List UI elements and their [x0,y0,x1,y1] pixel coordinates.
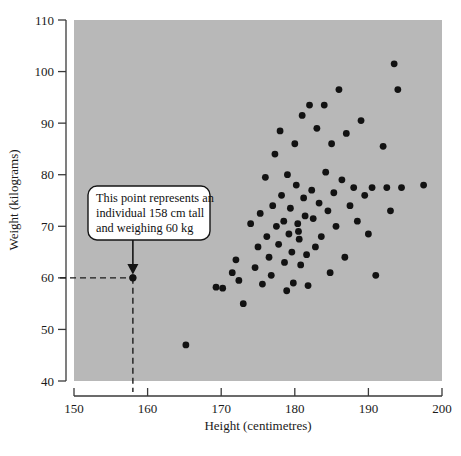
data-point [361,192,368,199]
data-point [259,281,266,288]
y-tick-label: 110 [35,13,54,28]
data-point [287,205,294,212]
data-point [327,269,334,276]
data-point [295,228,302,235]
y-tick-label: 80 [41,167,54,182]
data-point [369,184,376,191]
callout-line-3: and weighing 60 kg [96,221,193,235]
y-tick-label: 60 [41,270,54,285]
y-tick-label: 50 [41,322,54,337]
data-point [235,277,242,284]
y-axis-title: Weight (kilograms) [6,149,21,250]
data-point [269,202,276,209]
data-point [391,60,398,67]
data-point [291,140,298,147]
y-axis-ticks [58,20,66,381]
data-point [286,231,293,238]
data-point [213,284,220,291]
y-tick-label: 70 [41,219,54,234]
data-point [321,102,328,109]
data-point [380,143,387,150]
data-point [272,151,279,158]
data-point [219,285,226,292]
data-point [294,220,301,227]
callout-line-2: individual 158 cm tall [96,206,205,220]
x-tick-label: 160 [138,401,158,416]
data-point [310,215,317,222]
data-point [305,282,312,289]
highlighted-data-point [129,274,136,281]
data-point [325,207,332,214]
data-point [300,195,307,202]
data-point [262,174,269,181]
data-point [277,127,284,134]
data-point [302,213,309,220]
data-point [297,262,304,269]
data-point [336,86,343,93]
data-point [383,184,390,191]
data-point [233,256,240,263]
data-point [275,241,282,248]
data-point [268,272,275,279]
data-point [328,140,335,147]
data-point [312,244,319,251]
y-axis: 405060708090100110 Weight (kilograms) [6,13,66,389]
x-axis-title: Height (centimetres) [204,418,311,433]
data-point [308,187,315,194]
x-tick-label: 190 [359,401,379,416]
data-point [316,200,323,207]
data-point [247,220,254,227]
y-axis-tick-labels: 405060708090100110 [35,13,55,389]
data-point [257,210,264,217]
data-point [365,231,372,238]
data-point [343,130,350,137]
data-point [278,192,285,199]
data-point [306,102,313,109]
data-point [372,272,379,279]
data-point [341,254,348,261]
data-point [387,207,394,214]
data-point [358,117,365,124]
callout-line-1: This point represents an [96,191,214,205]
data-point [313,125,320,132]
data-point [284,171,291,178]
data-point [330,189,337,196]
data-point [263,233,270,240]
scatter-plot-figure: 405060708090100110 Weight (kilograms) 15… [0,0,461,456]
data-point [229,269,236,276]
data-point [266,254,273,261]
data-point [394,86,401,93]
chart-svg: 405060708090100110 Weight (kilograms) 15… [0,0,461,456]
x-tick-label: 170 [211,401,231,416]
data-point [296,236,303,243]
data-point [350,184,357,191]
x-tick-label: 150 [64,401,84,416]
data-point [273,223,280,230]
data-point [354,218,361,225]
data-point [290,280,297,287]
y-tick-label: 100 [35,64,55,79]
y-tick-label: 90 [41,116,54,131]
y-tick-label: 40 [41,374,54,389]
data-point [398,184,405,191]
x-axis-ticks [74,388,442,396]
data-point [293,182,300,189]
x-axis-tick-labels: 150160170180190200 [64,401,452,416]
data-point [339,176,346,183]
data-point [182,342,189,349]
data-point [255,244,262,251]
data-point [303,251,310,258]
data-point [347,202,354,209]
data-point [252,264,259,271]
x-tick-label: 180 [285,401,305,416]
data-point [299,112,306,119]
data-point [240,300,247,307]
data-point [288,249,295,256]
x-axis: 150160170180190200 Height (centimetres) [64,388,452,433]
data-point [283,287,290,294]
data-point [281,259,288,266]
data-point [420,182,427,189]
data-point [280,218,287,225]
data-point [322,169,329,176]
data-point [333,223,340,230]
